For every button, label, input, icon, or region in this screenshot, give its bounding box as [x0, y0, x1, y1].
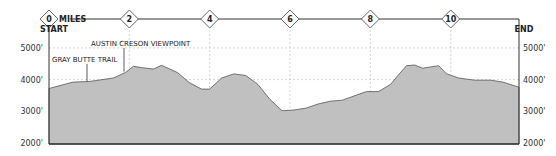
svg-text:MILES: MILES [59, 15, 87, 24]
svg-text:5000': 5000' [523, 44, 546, 53]
y-axis-left: 2000'3000'4000'5000' [20, 44, 43, 148]
svg-text:AUSTIN CRESON VIEWPOINT: AUSTIN CRESON VIEWPOINT [91, 40, 191, 48]
y-axis-right: 2000'3000'4000'5000' [523, 44, 546, 148]
elevation-profile-chart: 0246810MILESSTARTEND 2000'3000'4000'5000… [0, 0, 556, 156]
svg-text:2000': 2000' [20, 139, 43, 148]
svg-text:GRAY BUTTE TRAIL: GRAY BUTTE TRAIL [52, 56, 117, 64]
svg-text:3000': 3000' [523, 107, 546, 116]
svg-text:4: 4 [207, 15, 213, 24]
svg-text:10: 10 [445, 15, 457, 24]
svg-text:5000': 5000' [20, 44, 43, 53]
mile-scale: 0246810MILESSTARTEND [40, 10, 534, 34]
svg-text:END: END [515, 25, 534, 34]
svg-text:2: 2 [127, 15, 133, 24]
elevation-area [49, 65, 519, 144]
svg-text:START: START [40, 25, 69, 34]
svg-text:8: 8 [368, 15, 374, 24]
svg-text:2000': 2000' [523, 139, 546, 148]
svg-text:4000': 4000' [523, 76, 546, 85]
svg-text:0: 0 [46, 15, 52, 24]
svg-text:3000': 3000' [20, 107, 43, 116]
svg-text:4000': 4000' [20, 76, 43, 85]
svg-text:6: 6 [287, 15, 293, 24]
